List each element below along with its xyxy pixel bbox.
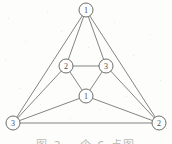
graph-node-label: 1 xyxy=(84,92,88,101)
graph-edge xyxy=(18,71,61,118)
graph-node: 2 xyxy=(59,59,73,73)
graph-edge xyxy=(93,98,153,120)
graph-edge xyxy=(70,72,82,90)
figure-caption-text: 图 2 一个 6 点图 xyxy=(36,139,135,144)
edge-layer xyxy=(17,16,155,123)
graph-node: 3 xyxy=(99,59,113,73)
graph-edge xyxy=(68,17,83,60)
graph-edge xyxy=(88,17,103,60)
graph-node-label: 3 xyxy=(11,119,15,128)
graph-node: 2 xyxy=(152,116,166,130)
figure-container: 123132 图 2 一个 6 点图 xyxy=(0,0,172,144)
graph-edge xyxy=(111,71,154,118)
graph-node: 1 xyxy=(79,89,93,103)
node-layer: 123132 xyxy=(6,3,166,130)
graph-node-label: 3 xyxy=(104,62,108,71)
graph-node-label: 1 xyxy=(84,6,88,15)
graph-node: 1 xyxy=(79,3,93,17)
graph-edge xyxy=(90,72,102,90)
graph-node-label: 2 xyxy=(157,119,161,128)
graph-edge xyxy=(20,98,80,120)
graph-node: 3 xyxy=(6,116,20,130)
graph-canvas: 123132 xyxy=(0,0,172,144)
figure-caption: 图 2 一个 6 点图 xyxy=(0,134,172,144)
graph-node-label: 2 xyxy=(64,62,68,71)
